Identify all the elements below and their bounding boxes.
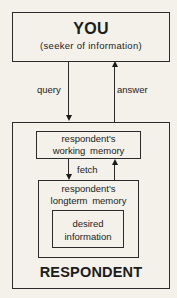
longterm-memory-line1: respondent's <box>39 183 138 194</box>
you-title: YOU <box>13 20 169 38</box>
you-box: YOU (seeker of information) <box>12 12 170 62</box>
respondent-title: RESPONDENT <box>13 264 169 280</box>
desired-information-line1: desired <box>53 218 123 229</box>
query-arrow-line <box>68 62 69 116</box>
desired-information-line2: information <box>53 231 123 242</box>
fetch-down-arrow-line <box>68 159 69 175</box>
query-arrow-head-icon <box>66 115 72 121</box>
you-subtitle: (seeker of information) <box>13 40 169 51</box>
working-memory-line1: respondent's <box>37 133 140 144</box>
answer-arrow-head-icon <box>112 61 118 67</box>
fetch-label: fetch <box>77 164 98 175</box>
answer-arrow-line <box>114 66 115 122</box>
working-memory-box: respondent's working memory <box>36 131 141 159</box>
fetch-up-arrow-line <box>114 164 115 180</box>
answer-label: answer <box>117 84 148 95</box>
longterm-memory-line2: longterm memory <box>39 195 138 206</box>
desired-information-box: desired information <box>52 210 124 248</box>
query-label: query <box>37 84 61 95</box>
working-memory-line2: working memory <box>37 145 140 156</box>
fetch-up-arrow-head-icon <box>112 159 118 165</box>
